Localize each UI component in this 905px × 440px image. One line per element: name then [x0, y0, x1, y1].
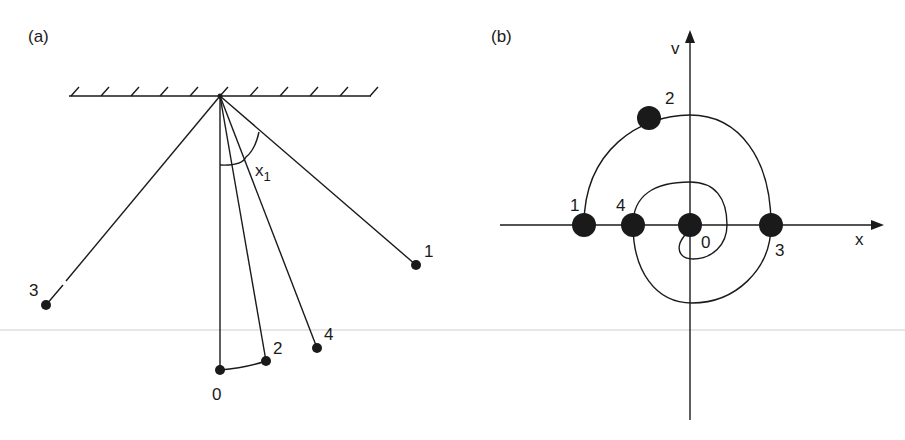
point-label-1: 1 [570, 196, 579, 215]
string-4 [220, 96, 317, 348]
panel-b-label: (b) [491, 27, 512, 46]
point-label-3: 3 [775, 241, 784, 260]
panel-a-pendulum: (a) x1 [28, 27, 433, 404]
point-3 [759, 213, 783, 237]
string-3 [66, 96, 220, 281]
string-2 [220, 96, 266, 361]
v-axis-arrow-icon [685, 30, 695, 43]
point-4 [621, 213, 645, 237]
point-label-0: 0 [701, 233, 710, 252]
point-label-4: 4 [616, 196, 625, 215]
point-1 [572, 213, 596, 237]
v-axis-label: v [671, 39, 680, 58]
panel-b-phase-portrait: (b) x v 1 4 0 3 2 [491, 27, 884, 420]
bob-2 [261, 356, 271, 366]
ceiling [69, 87, 378, 96]
x-axis-arrow-icon [871, 220, 884, 230]
bob-label-3: 3 [29, 281, 38, 300]
bob-label-1: 1 [424, 242, 433, 261]
bob-0 [215, 365, 225, 375]
bob-label-2: 2 [273, 339, 282, 358]
point-0 [678, 213, 702, 237]
bob-1 [411, 260, 421, 270]
bob-label-0: 0 [212, 385, 221, 404]
point-2 [637, 106, 661, 130]
x-axis-label: x [855, 230, 864, 249]
figure: (a) x1 [0, 0, 905, 440]
angle-label: x1 [255, 161, 271, 184]
point-label-2: 2 [665, 89, 674, 108]
bob-3 [41, 300, 51, 310]
panel-a-label: (a) [28, 27, 49, 46]
bob-4 [312, 343, 322, 353]
bob-label-4: 4 [324, 325, 333, 344]
arc-0-2 [220, 361, 266, 370]
string-1 [220, 96, 416, 265]
trajectory-spiral [584, 115, 771, 303]
